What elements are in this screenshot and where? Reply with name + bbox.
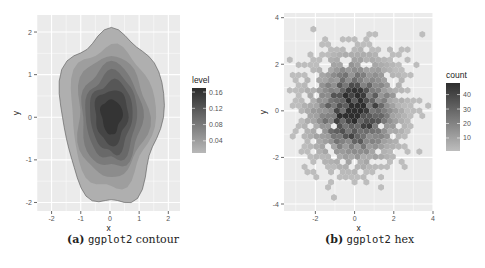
- x-tick-label: 2: [166, 215, 170, 222]
- legend-label: 30: [463, 106, 471, 113]
- y-tick-label: 0: [275, 107, 279, 114]
- caption-a-code: ggplot2: [88, 233, 132, 245]
- figure-a-contour: -2-1012210-1-2xylevel0.160.120.080.04 (a…: [0, 0, 240, 268]
- y-tick-label: 0: [28, 114, 32, 121]
- y-axis-label: y: [258, 109, 268, 114]
- caption-b-text: hex: [394, 233, 414, 246]
- legend-label: 20: [463, 120, 471, 127]
- caption-a-text: contour: [136, 233, 179, 246]
- x-tick-label: 0: [108, 215, 112, 222]
- caption-b-label: (b): [325, 233, 343, 246]
- y-tick-label: 1: [28, 71, 32, 78]
- legend-label: 0.08: [209, 121, 223, 128]
- legend-label: 40: [463, 91, 471, 98]
- y-tick-label: -4: [273, 201, 279, 208]
- x-tick-label: 2: [392, 215, 396, 222]
- legend-title: count: [446, 70, 467, 80]
- legend-title: level: [192, 75, 210, 85]
- y-tick-label: -2: [273, 154, 279, 161]
- x-tick-label: 1: [137, 215, 141, 222]
- caption-b: (b) ggplot2 hex: [325, 233, 414, 246]
- colorbar: [192, 88, 206, 153]
- plot-panel: [284, 13, 433, 211]
- colorbar: [446, 83, 460, 151]
- y-tick-label: -2: [26, 199, 32, 206]
- plot-panel: [37, 15, 180, 211]
- y-tick-label: 2: [275, 61, 279, 68]
- legend-label: 10: [463, 134, 471, 141]
- caption-a: (a) ggplot2 contour: [67, 233, 179, 246]
- legend-label: 0.16: [209, 89, 223, 96]
- caption-a-label: (a): [67, 233, 85, 246]
- y-tick-label: -1: [26, 156, 32, 163]
- y-tick-label: 2: [28, 29, 32, 36]
- legend: count40302010: [446, 70, 471, 151]
- figure-b-hex: -2024420-2-4xycount40302010 (b) ggplot2 …: [245, 0, 485, 268]
- x-tick-label: -2: [48, 215, 54, 222]
- x-tick-label: 0: [353, 215, 357, 222]
- x-tick-label: -1: [78, 215, 84, 222]
- x-axis-label: x: [106, 223, 111, 233]
- legend: level0.160.120.080.04: [192, 75, 223, 153]
- caption-b-code: ggplot2: [347, 233, 391, 245]
- contour-plot: -2-1012210-1-2xylevel0.160.120.080.04: [0, 0, 240, 268]
- y-tick-label: 4: [275, 14, 279, 21]
- hexbin-plot: -2024420-2-4xycount40302010: [245, 0, 485, 268]
- x-tick-label: 4: [431, 215, 435, 222]
- y-axis-label: y: [11, 110, 21, 115]
- x-axis-label: x: [356, 223, 361, 233]
- legend-label: 0.12: [209, 105, 223, 112]
- legend-label: 0.04: [209, 137, 223, 144]
- x-tick-label: -2: [312, 215, 318, 222]
